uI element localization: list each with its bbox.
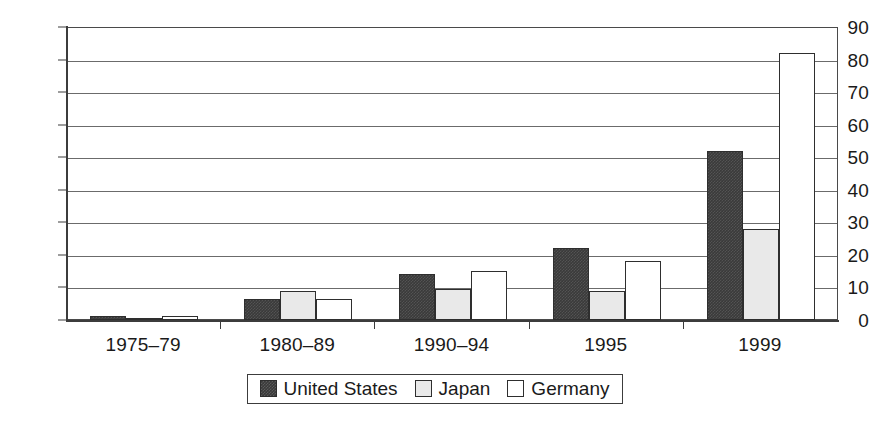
- legend-swatch-icon: [415, 380, 432, 397]
- x-axis-group-label: 1999: [738, 334, 781, 356]
- bar-germany-1999: [779, 53, 815, 320]
- x-axis-group-label: 1995: [584, 334, 627, 356]
- x-axis-tick-mark: [220, 320, 221, 329]
- bar-united-states-1990-94: [399, 274, 435, 320]
- legend-swatch-icon: [260, 380, 277, 397]
- bar-united-states-1980-89: [244, 299, 280, 320]
- bar-japan-1975-79: [126, 318, 162, 320]
- chart-legend: United StatesJapanGermany: [247, 374, 623, 404]
- bar-japan-1980-89: [280, 291, 316, 320]
- x-axis-tick-mark: [529, 320, 530, 329]
- bar-united-states-1999: [707, 151, 743, 320]
- x-axis-group-label: 1980–89: [260, 334, 335, 356]
- bars-layer: [67, 27, 838, 320]
- bar-japan-1999: [743, 229, 779, 320]
- legend-label: Germany: [531, 379, 609, 398]
- bar-germany-1990-94: [471, 271, 507, 320]
- bar-united-states-1975-79: [90, 316, 126, 320]
- bar-germany-1980-89: [316, 299, 352, 320]
- bar-japan-1995: [589, 291, 625, 320]
- bar-chart: 0102030405060708090 1975–791980–891990–9…: [0, 0, 869, 425]
- legend-label: United States: [284, 379, 398, 398]
- x-axis-tick-mark: [683, 320, 684, 329]
- bar-germany-1975-79: [162, 316, 198, 320]
- legend-item-united-states[interactable]: United States: [260, 379, 398, 398]
- x-axis-line: [66, 320, 839, 322]
- bar-united-states-1995: [553, 248, 589, 320]
- x-axis-group-label: 1990–94: [414, 334, 489, 356]
- legend-label: Japan: [439, 379, 491, 398]
- bar-japan-1990-94: [435, 289, 471, 320]
- x-axis-tick-mark: [374, 320, 375, 329]
- x-axis-group-label: 1975–79: [105, 334, 180, 356]
- legend-item-japan[interactable]: Japan: [415, 379, 491, 398]
- legend-swatch-icon: [507, 380, 524, 397]
- bar-germany-1995: [625, 261, 661, 320]
- legend-item-germany[interactable]: Germany: [507, 379, 609, 398]
